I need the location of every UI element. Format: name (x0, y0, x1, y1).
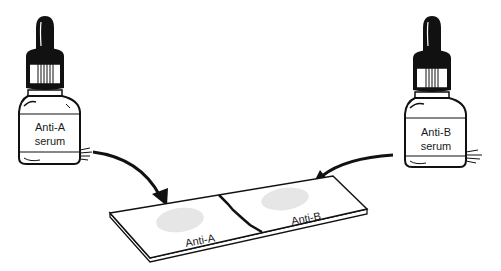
arrow-anti-a-to-slide (93, 152, 168, 206)
blood-typing-diagram: Anti-A serum Anti-B serum (0, 0, 501, 271)
anti-a-serum-bottle: Anti-A serum (19, 16, 92, 164)
bottle-label-line1: Anti-B (421, 126, 451, 138)
dropper-bulb-icon (36, 16, 54, 52)
bottle-label-line1: Anti-A (35, 121, 66, 133)
glass-slide: Anti-A Anti-B (110, 176, 367, 262)
anti-b-serum-bottle: Anti-B serum (405, 16, 482, 167)
dropper-bulb-icon (423, 16, 441, 52)
bottle-label-line2: serum (421, 140, 452, 152)
bottle-label-line2: serum (35, 135, 66, 147)
